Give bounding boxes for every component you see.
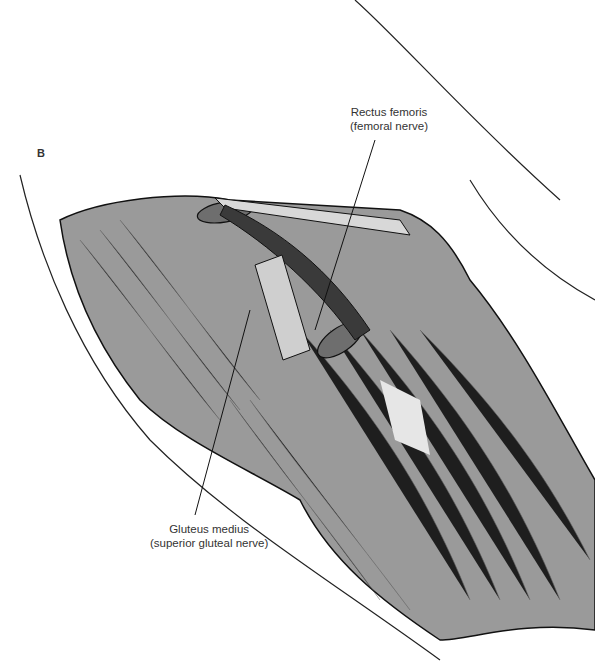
label-line-1: Rectus femoris bbox=[350, 105, 428, 119]
anatomical-illustration: B Rectus femoris (femoral nerve) Gluteus… bbox=[0, 0, 595, 666]
hip-thigh-muscle-drawing bbox=[0, 0, 595, 666]
gluteus-medius-label: Gluteus medius (superior gluteal nerve) bbox=[150, 522, 268, 550]
panel-letter: B bbox=[37, 147, 45, 159]
label-line-1: Gluteus medius bbox=[150, 522, 268, 536]
label-line-2: (superior gluteal nerve) bbox=[150, 536, 268, 550]
label-line-2: (femoral nerve) bbox=[350, 119, 428, 133]
rectus-femoris-label: Rectus femoris (femoral nerve) bbox=[350, 105, 428, 133]
